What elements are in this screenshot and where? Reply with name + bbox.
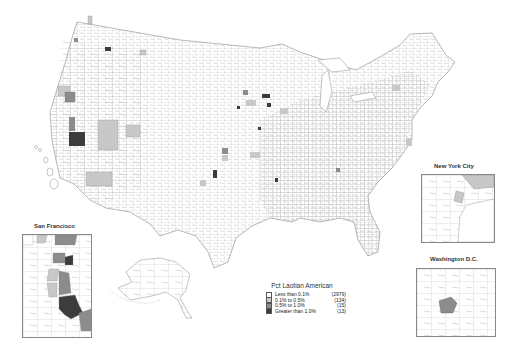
swatch-class-4 (266, 308, 272, 314)
alaska (110, 258, 192, 318)
choropleth-map: New York City Washington D.C. San Franci… (0, 0, 515, 353)
legend: Pct Laotian American Less than 0.1% (297… (266, 282, 346, 314)
inset-new-york-city (421, 174, 495, 243)
legend-label: Greater than 1.0% (275, 309, 330, 315)
inset-title-new-york: New York City (434, 163, 474, 169)
legend-count: (13) (330, 309, 346, 315)
inset-title-washington: Washington D.C. (430, 256, 478, 262)
inset-title-san-francisco: San Francisco (34, 223, 75, 229)
inset-washington-dc (416, 268, 496, 337)
legend-item: Greater than 1.0% (13) (266, 309, 346, 315)
legend-title: Pct Laotian American (258, 282, 346, 289)
inset-san-francisco (22, 234, 92, 338)
